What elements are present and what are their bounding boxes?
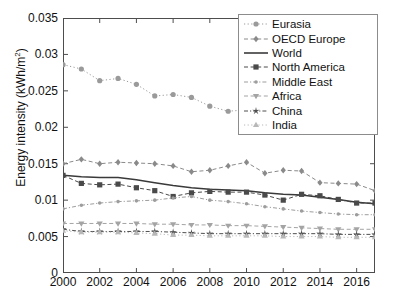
x-tick-label: 2012	[270, 275, 297, 289]
legend-label: Middle East	[272, 75, 332, 89]
legend-item-world[interactable]: World	[242, 46, 373, 60]
y-tick-label: 0.005	[28, 230, 58, 244]
legend-item-middle-east[interactable]: Middle East	[242, 75, 373, 89]
legend-symbol-circle-icon	[242, 17, 272, 31]
legend-symbol-square-icon	[242, 60, 272, 74]
legend-symbol-triangle-down-icon	[242, 89, 272, 103]
series-oecd-europe	[63, 156, 375, 194]
legend-label: World	[272, 46, 302, 60]
chart-legend: EurasiaOECD EuropeWorldNorth AmericaMidd…	[238, 14, 378, 135]
legend-item-north-america[interactable]: North America	[242, 60, 373, 74]
x-tick-label: 2010	[233, 275, 260, 289]
legend-label: Eurasia	[272, 17, 311, 31]
series-world	[63, 175, 375, 203]
x-tick-label: 2004	[123, 275, 150, 289]
legend-symbol-dot-icon	[242, 75, 272, 89]
y-tick-label: 0.025	[28, 84, 58, 98]
series-china	[63, 225, 375, 237]
x-tick-label: 2006	[160, 275, 187, 289]
legend-item-china[interactable]: China	[242, 103, 373, 117]
series-africa	[63, 221, 375, 232]
legend-label: China	[272, 104, 302, 118]
legend-symbol-triangle-up-icon	[242, 118, 272, 132]
legend-item-eurasia[interactable]: Eurasia	[242, 17, 373, 31]
legend-item-oecd-europe[interactable]: OECD Europe	[242, 31, 373, 45]
legend-label: India	[272, 118, 297, 132]
x-tick-label: 2008	[196, 275, 223, 289]
y-tick-label: 0.01	[35, 193, 58, 207]
x-tick-label: 2002	[86, 275, 113, 289]
y-tick-label: 0.02	[35, 120, 58, 134]
y-tick-label: 0.03	[35, 47, 58, 61]
legend-item-africa[interactable]: Africa	[242, 89, 373, 103]
legend-item-india[interactable]: India	[242, 118, 373, 132]
legend-symbol-none-icon	[242, 46, 272, 60]
x-tick-label: 2000	[50, 275, 77, 289]
legend-label: OECD Europe	[272, 32, 346, 46]
y-axis-tick-labels: 00.0050.010.0150.020.0250.030.035	[0, 18, 58, 273]
legend-symbol-star-icon	[242, 104, 272, 118]
x-axis-tick-labels: 200020022004200620082010201220142016	[63, 275, 375, 295]
x-tick-label: 2016	[343, 275, 370, 289]
legend-label: Africa	[272, 89, 301, 103]
y-tick-label: 0.035	[28, 11, 58, 25]
legend-label: North America	[272, 60, 345, 74]
y-tick-label: 0.015	[28, 157, 58, 171]
energy-intensity-chart: Energy intensity (kWh/m2) 00.0050.010.01…	[0, 0, 398, 308]
legend-symbol-diamond-icon	[242, 32, 272, 46]
x-tick-label: 2014	[307, 275, 334, 289]
